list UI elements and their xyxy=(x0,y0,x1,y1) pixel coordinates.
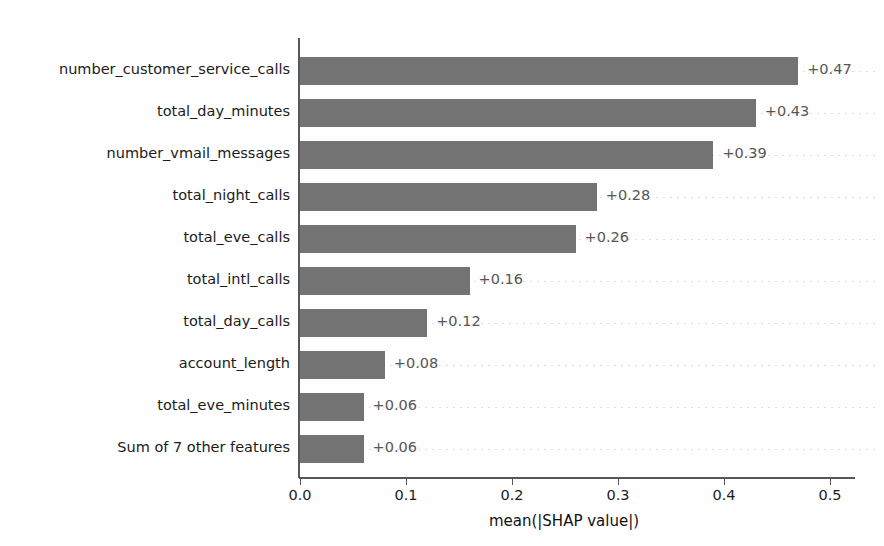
x-tick-label: 0.5 xyxy=(818,487,841,503)
feature-label: number_vmail_messages xyxy=(0,145,290,161)
feature-label: Sum of 7 other features xyxy=(0,439,290,455)
bar[interactable] xyxy=(300,183,597,211)
x-tick-mark xyxy=(406,479,407,485)
bar-row: total_day_calls+0.12 xyxy=(0,303,884,345)
bar-value-label: +0.06 xyxy=(373,439,417,455)
bar-value-label: +0.12 xyxy=(436,313,480,329)
y-axis-spine xyxy=(298,38,300,478)
bar[interactable] xyxy=(300,267,470,295)
bar-row: total_intl_calls+0.16 xyxy=(0,261,884,303)
feature-label: total_eve_calls xyxy=(0,229,290,245)
feature-label: total_eve_minutes xyxy=(0,397,290,413)
bar-value-label: +0.28 xyxy=(606,187,650,203)
bar[interactable] xyxy=(300,57,798,85)
x-tick-mark xyxy=(618,479,619,485)
bar[interactable] xyxy=(300,99,756,127)
bar-row: total_day_minutes+0.43 xyxy=(0,93,884,135)
x-tick-label: 0.0 xyxy=(288,487,311,503)
bar-row: total_eve_minutes+0.06 xyxy=(0,387,884,429)
bar-value-label: +0.47 xyxy=(807,61,851,77)
bar[interactable] xyxy=(300,351,385,379)
bar-value-label: +0.26 xyxy=(585,229,629,245)
x-tick-mark xyxy=(724,479,725,485)
bar-row: Sum of 7 other features+0.06 xyxy=(0,429,884,471)
x-tick-label: 0.2 xyxy=(500,487,523,503)
bar-row: total_night_calls+0.28 xyxy=(0,177,884,219)
x-tick-label: 0.3 xyxy=(606,487,629,503)
bar[interactable] xyxy=(300,141,713,169)
bar[interactable] xyxy=(300,309,427,337)
x-tick-mark xyxy=(512,479,513,485)
bar[interactable] xyxy=(300,435,364,463)
feature-label: total_intl_calls xyxy=(0,271,290,287)
row-gridline xyxy=(299,365,876,366)
bar-row: number_customer_service_calls+0.47 xyxy=(0,51,884,93)
feature-label: total_day_calls xyxy=(0,313,290,329)
x-tick-mark xyxy=(830,479,831,485)
x-axis-spine xyxy=(299,477,855,479)
bar[interactable] xyxy=(300,393,364,421)
x-axis-title: mean(|SHAP value|) xyxy=(299,512,829,530)
bar-row: total_eve_calls+0.26 xyxy=(0,219,884,261)
feature-label: account_length xyxy=(0,355,290,371)
feature-label: number_customer_service_calls xyxy=(0,61,290,77)
bar-value-label: +0.39 xyxy=(722,145,766,161)
x-tick-label: 0.1 xyxy=(394,487,417,503)
feature-label: total_night_calls xyxy=(0,187,290,203)
bar[interactable] xyxy=(300,225,576,253)
bar-value-label: +0.06 xyxy=(373,397,417,413)
feature-label: total_day_minutes xyxy=(0,103,290,119)
x-tick-mark xyxy=(300,479,301,485)
shap-feature-importance-figure: number_customer_service_calls+0.47total_… xyxy=(0,0,884,546)
bar-value-label: +0.43 xyxy=(765,103,809,119)
x-tick-label: 0.4 xyxy=(712,487,735,503)
bar-row: number_vmail_messages+0.39 xyxy=(0,135,884,177)
bar-value-label: +0.16 xyxy=(479,271,523,287)
bar-row: account_length+0.08 xyxy=(0,345,884,387)
bar-value-label: +0.08 xyxy=(394,355,438,371)
